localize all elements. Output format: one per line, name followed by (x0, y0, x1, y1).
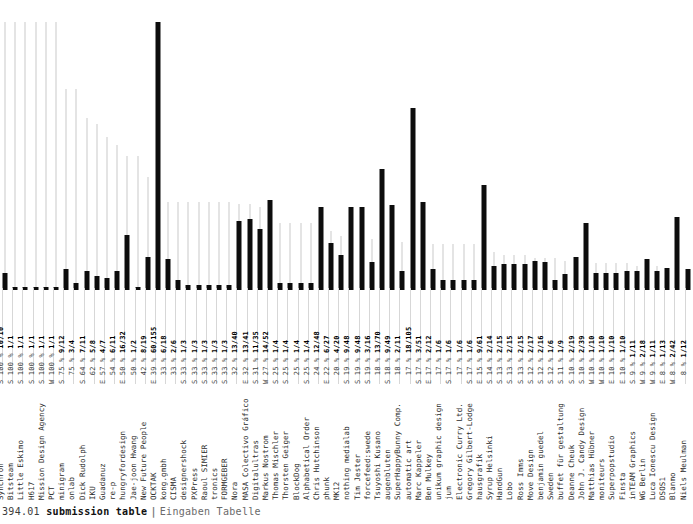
region-code (89, 380, 97, 384)
absolute-bar (155, 22, 160, 290)
percent-value: 64 % (79, 357, 87, 375)
fraction-value: 1/13 (659, 340, 667, 358)
region-code (435, 380, 443, 384)
region-code: S (201, 380, 209, 384)
percent-bar (117, 145, 118, 290)
fraction-value: 2/15 (496, 335, 504, 353)
percent-value: 13 % (506, 357, 514, 375)
value-label: E 39 % 60/155 (150, 327, 158, 384)
region-code (313, 380, 321, 384)
category-columns: SynchronBitsteamLittle EskimoH617Mission… (0, 388, 693, 500)
value-label: W 27 % 14/52 (262, 331, 270, 384)
percent-value: 75 % (68, 357, 76, 375)
value-label: 62 % 5/8 (89, 340, 97, 384)
value-label: W 9 % 2/18 (639, 340, 647, 384)
value-label: S 75 % 9/12 (58, 335, 66, 384)
region-code: E (425, 380, 433, 384)
bar-group (367, 18, 377, 290)
percent-value: 25 % (272, 357, 280, 375)
absolute-bar (349, 207, 354, 290)
percent-value: 17 % (456, 357, 464, 375)
bar-group (204, 18, 214, 290)
category-label: Thomas Mischler (272, 431, 280, 500)
bar-group (265, 18, 275, 290)
fraction-value: 2/12 (425, 335, 433, 353)
absolute-bar (64, 269, 69, 290)
fraction-value: 1/4 (293, 340, 301, 353)
absolute-bar (430, 269, 435, 290)
region-code: S (364, 380, 372, 384)
category-label: Ross Imms (517, 458, 525, 500)
bar-group (377, 18, 387, 290)
bar-group (509, 18, 519, 290)
value-label: S 13 % 2/15 (506, 335, 514, 384)
bar-group (591, 18, 601, 290)
value-label: 33 % 2/6 (170, 340, 178, 384)
value-label: S 13 % 2/15 (496, 335, 504, 384)
category-label: New Future People (140, 422, 148, 500)
value-label: S 100 % 1/1 (7, 335, 15, 384)
percent-value: 33 % (180, 357, 188, 375)
region-code: E (476, 380, 484, 384)
bar-group (0, 18, 10, 290)
value-label: S 10 % 2/19 (568, 335, 576, 384)
category-label: Gregory Gilbert-Lodge (466, 403, 474, 500)
category-label: inTEAM Graphics (629, 431, 637, 500)
value-label: S 100 % 1/1 (38, 335, 46, 384)
bar-group (642, 18, 652, 290)
bar-group (92, 18, 102, 290)
fraction-value: 1/10 (608, 335, 616, 353)
percent-bar (66, 89, 67, 290)
fraction-value: 2/19 (568, 335, 576, 353)
region-code (293, 380, 301, 384)
category-label: PXPress (191, 468, 199, 500)
region-code: E (659, 380, 667, 384)
bar-group (275, 18, 285, 290)
fraction-value: 2/42 (669, 340, 677, 358)
bar-group (662, 18, 672, 290)
percent-value: 14 % (486, 357, 494, 375)
percent-value: 10 % (588, 357, 596, 375)
region-code: E (119, 380, 127, 384)
region-code (405, 380, 413, 384)
region-code: S (252, 380, 260, 384)
absolute-bar (369, 262, 374, 290)
fraction-value: 1/11 (629, 340, 637, 358)
region-code: S (547, 380, 555, 384)
category-label: Chris Hutchinson (313, 426, 321, 500)
bar-group (163, 18, 173, 290)
percent-value: 75 % (58, 357, 66, 375)
fraction-value: 11/35 (252, 331, 260, 353)
category-label: FORMGEBER (221, 458, 229, 500)
value-label: 33 % 6/18 (160, 335, 168, 384)
region-code: S (343, 380, 351, 384)
absolute-bar (380, 169, 385, 290)
value-label: E 50 % 16/32 (119, 331, 127, 384)
region-code (680, 380, 688, 384)
bar-group (672, 18, 682, 290)
fraction-value: 1/1 (48, 335, 56, 348)
percent-value: 9 % (629, 362, 637, 375)
percent-bar (15, 22, 16, 290)
bar-group (326, 18, 336, 290)
absolute-bar (502, 264, 507, 290)
category-label: moniteurs (598, 458, 606, 500)
fraction-value: 1/1 (7, 335, 15, 348)
bar-group (683, 18, 693, 290)
percent-value: 10 % (578, 357, 586, 375)
region-code: S (211, 380, 219, 384)
percent-value: 8 % (680, 362, 688, 375)
category-label: designershock (180, 440, 188, 500)
category-label: Blanmo (669, 472, 677, 500)
percent-bar (45, 22, 46, 290)
bar-group (194, 18, 204, 290)
category-label: BlockDog (293, 463, 301, 500)
absolute-bar (644, 259, 649, 290)
fraction-value: 2/15 (517, 335, 525, 353)
fraction-value: 1/3 (191, 340, 199, 353)
percent-bar (208, 202, 209, 290)
fraction-value: 1/6 (456, 340, 464, 353)
region-code: W (669, 380, 677, 384)
category-label: forcefeed:swede (364, 431, 372, 500)
category-label: MASA Colectivo Gráfico (242, 398, 250, 500)
